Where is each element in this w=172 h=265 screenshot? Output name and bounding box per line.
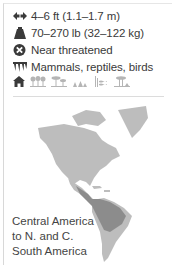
section-divider [13,96,164,97]
grassland-icon [72,76,88,87]
length-arrows-icon [13,10,27,22]
habitat-home-icon [13,76,25,87]
near-threatened-icon [13,44,27,56]
wetland-icon [93,76,109,87]
scrub-icon [114,76,130,87]
status-row: Near threatened [13,42,113,58]
weight-icon [13,27,27,39]
rainforest-icon [30,76,46,87]
diet-text: Mammals, reptiles, birds [31,61,153,73]
weight-row: 70–270 lb (32–122 kg) [13,25,144,41]
habitat-icons [13,76,130,87]
diet-row: Mammals, reptiles, birds [13,59,153,75]
region-line-3: South America [12,244,94,259]
tropical-forest-icon [51,76,67,87]
region-line-1: Central America [12,214,94,229]
status-text: Near threatened [31,44,113,56]
region-description: Central America to N. and C. South Ameri… [12,214,94,259]
size-text: 4–6 ft (1.1–1.7 m) [31,10,120,22]
weight-text: 70–270 lb (32–122 kg) [31,27,144,39]
region-line-2: to N. and C. [12,229,94,244]
claw-marks-icon [13,61,27,73]
size-row: 4–6 ft (1.1–1.7 m) [13,8,120,24]
